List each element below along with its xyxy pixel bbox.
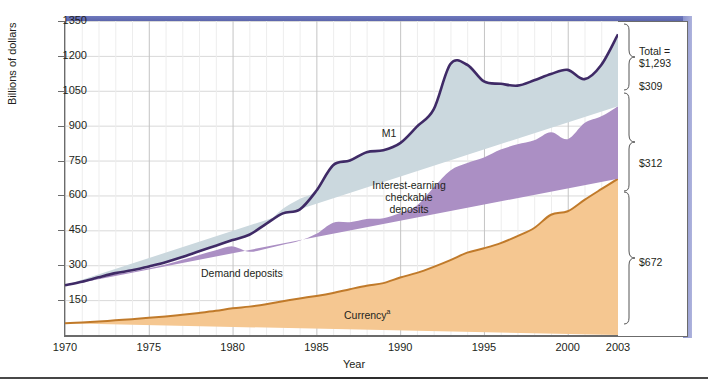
x-tick-label: 1975: [137, 341, 161, 353]
total-line-1: Total =: [639, 45, 670, 57]
y-axis-title: Billions of dollars: [6, 22, 18, 105]
y-tick-label: 1200: [63, 50, 87, 61]
y-tick-label: 300: [69, 259, 87, 270]
figure-page: M1 Interest-earning checkable deposits D…: [0, 0, 708, 388]
x-tick-label: 1970: [53, 341, 77, 353]
y-tick-label: 900: [69, 120, 87, 131]
bracket-label-total: Total = $1,293: [639, 45, 671, 69]
x-tick-label: 1985: [304, 341, 328, 353]
y-tick: [58, 230, 64, 231]
y-tick: [58, 265, 64, 266]
m1-components-area-chart: M1 Interest-earning checkable deposits D…: [0, 0, 708, 375]
plot-area: M1 Interest-earning checkable deposits D…: [64, 21, 618, 336]
x-tick-label: 1995: [472, 341, 496, 353]
label-m1: M1: [382, 127, 397, 139]
x-tick-label: 2000: [555, 341, 579, 353]
x-tick-label: 1980: [220, 341, 244, 353]
y-tick-label: 600: [69, 189, 87, 200]
x-tick-label: 1990: [388, 341, 412, 353]
total-line-2: $1,293: [639, 57, 671, 69]
bracket-label-demand-deposits: $312: [639, 157, 662, 169]
y-tick: [58, 300, 64, 301]
currency-footnote-marker: a: [387, 308, 391, 315]
bracket-label-currency: $672: [639, 256, 662, 268]
iecd-line-1: Interest-earning: [372, 179, 446, 191]
page-bottom-rule: [0, 377, 708, 379]
y-tick: [58, 126, 64, 127]
label-currency: Currencya: [344, 306, 391, 321]
y-tick-label: 750: [69, 155, 87, 166]
bracket-label-interest-earning: $309: [639, 80, 662, 92]
y-tick-label: 1050: [63, 85, 87, 96]
y-tick: [58, 195, 64, 196]
y-tick-label: 1350: [63, 15, 87, 26]
label-demand-deposits: Demand deposits: [201, 267, 283, 279]
y-tick: [58, 161, 64, 162]
x-axis-title: Year: [0, 358, 708, 370]
stacked-area-series: [64, 21, 618, 336]
x-axis-line: [64, 335, 618, 336]
y-tick-label: 150: [69, 294, 87, 305]
y-tick-label: 450: [69, 224, 87, 235]
y-axis-line: [64, 21, 65, 336]
label-interest-earning-checkable-deposits: Interest-earning checkable deposits: [372, 179, 446, 215]
currency-text: Currency: [344, 309, 387, 321]
iecd-line-2: checkable: [385, 191, 432, 203]
right-bracket-column: Total = $1,293 $309 $312 $672: [618, 21, 688, 337]
x-tick-label: 2003: [606, 341, 630, 353]
iecd-line-3: deposits: [389, 203, 428, 215]
